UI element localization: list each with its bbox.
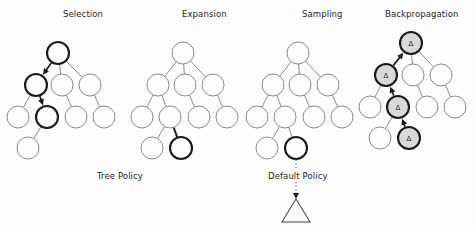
arrow-head (38, 99, 44, 106)
tree-node (202, 74, 224, 96)
tree-edge (417, 85, 422, 97)
panel-backpropagation: ΔΔΔΔ (359, 32, 466, 149)
tree-edge (191, 61, 206, 77)
tree-node (51, 74, 73, 96)
tree-node (274, 106, 296, 128)
panel-expansion (131, 42, 238, 159)
tree-node (303, 106, 325, 128)
tree-edge (306, 61, 321, 77)
tree-edge (217, 95, 222, 107)
tree-edge (375, 85, 381, 97)
tree-diagram-canvas: ΔΔΔΔ (0, 0, 475, 230)
tree-arrow (38, 96, 44, 105)
tree-edge (23, 95, 30, 108)
tree-node (317, 74, 339, 96)
tree-node (93, 106, 115, 128)
tree-edge (66, 95, 71, 107)
tree-arrow (393, 53, 403, 66)
tree-node-highlighted (36, 106, 58, 128)
tree-node (287, 42, 309, 64)
delta-label: Δ (407, 135, 412, 143)
tree-node (262, 74, 284, 96)
tree-node (246, 106, 268, 128)
tree-node (188, 106, 210, 128)
tree-node-highlighted (170, 137, 192, 159)
tree-edge (412, 54, 413, 64)
tree-node (17, 137, 39, 159)
tree-edge (189, 95, 194, 107)
tree-node (430, 64, 452, 86)
tree-edge (277, 95, 281, 106)
tree-edge (34, 126, 42, 138)
tree-node (416, 96, 438, 118)
panel-selection (7, 42, 115, 159)
tree-node-highlighted (25, 74, 47, 96)
mcts-figure: Selection Expansion Sampling Backpropaga… (0, 0, 475, 230)
tree-node (256, 137, 278, 159)
rollout-triangle (282, 199, 310, 222)
tree-edge (304, 95, 309, 107)
tree-edge (162, 95, 166, 106)
tree-node (216, 106, 238, 128)
tree-node (7, 106, 29, 128)
tree-edge (332, 95, 337, 107)
tree-node (79, 74, 101, 96)
tree-node (147, 74, 169, 96)
tree-edge (299, 64, 300, 74)
tree-node-highlighted (47, 42, 69, 64)
tree-edge (289, 127, 293, 137)
tree-node (289, 74, 311, 96)
tree-node (369, 127, 391, 149)
panel-sampling (246, 42, 353, 159)
tree-edge (165, 62, 176, 77)
tree-edge (280, 62, 291, 77)
tree-node (174, 74, 196, 96)
rollout-group (282, 160, 310, 222)
tree-node (444, 96, 466, 118)
tree-arrow (43, 63, 51, 75)
tree-arrow (401, 119, 407, 127)
tree-edge (273, 127, 280, 139)
tree-node (159, 106, 181, 128)
tree-edge (66, 61, 82, 77)
tree-edge (262, 95, 268, 107)
delta-label: Δ (396, 104, 401, 112)
tree-edge (445, 85, 450, 97)
tree-edge (386, 117, 393, 129)
tree-node (172, 42, 194, 64)
tree-edge (59, 64, 60, 74)
tree-node (359, 96, 381, 118)
tree-node-highlighted (285, 137, 307, 159)
tree-node (131, 106, 153, 128)
tree-edge (419, 51, 434, 67)
tree-edge (94, 95, 99, 107)
delta-label: Δ (384, 72, 389, 80)
tree-node (141, 137, 163, 159)
tree-edge (184, 64, 185, 74)
tree-node (65, 106, 87, 128)
tree-node (402, 64, 424, 86)
tree-edge (174, 127, 178, 137)
tree-node (331, 106, 353, 128)
tree-edge (147, 95, 153, 107)
tree-edge (158, 127, 165, 139)
delta-label: Δ (409, 40, 414, 48)
tree-arrow (390, 87, 396, 96)
